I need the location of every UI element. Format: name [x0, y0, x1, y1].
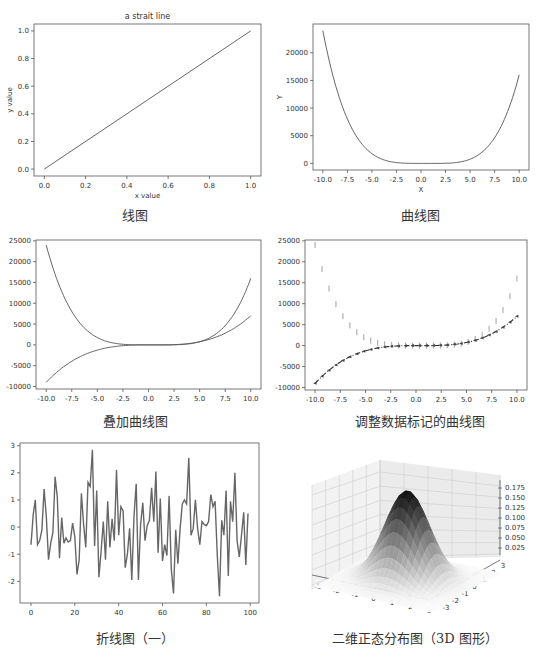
- x-tick-label: -7.5: [333, 396, 347, 404]
- cubic-curve-series: [46, 316, 251, 383]
- x-tick-label: 20: [70, 609, 79, 617]
- x-tick-label: 0.0: [410, 396, 421, 404]
- x-tick-label: 0.8: [204, 182, 215, 190]
- y-tick-label: -5000: [11, 362, 31, 370]
- y-tick-label: 5000: [282, 321, 300, 329]
- y-tick-label: 3: [501, 562, 505, 570]
- x-tick-label: -5.0: [365, 176, 379, 184]
- noise-series: [31, 450, 248, 596]
- x-tick-label: -10.0: [314, 176, 332, 184]
- x-tick-label: -5.0: [91, 395, 105, 403]
- chart-title: a strait line: [125, 12, 170, 21]
- x-tick-label: 7.5: [486, 396, 497, 404]
- cubic-dashdot-series: [315, 316, 517, 383]
- z-tick-label: 0.175: [505, 484, 525, 492]
- x-tick-label: -10.0: [37, 395, 55, 403]
- x-tick-label: -10.0: [306, 396, 324, 404]
- y-tick-label: 0.6: [18, 83, 30, 91]
- x-tick-label: 5.0: [461, 396, 472, 404]
- chart-marker-curves: -10.0-7.5-5.0-2.50.02.55.07.510.0-10000-…: [270, 225, 541, 410]
- x-tick-label: 0.0: [143, 395, 154, 403]
- triangle-marker: [313, 382, 317, 385]
- y-tick-label: -3: [443, 604, 450, 612]
- x-tick-label: 60: [158, 609, 167, 617]
- y-tick-label: 5000: [290, 132, 308, 140]
- triangle-marker: [508, 321, 512, 324]
- y-tick-label: 5000: [13, 321, 31, 329]
- y-tick-label: -10000: [6, 383, 31, 391]
- y-tick-label: 1.0: [18, 27, 29, 35]
- plot-area-frame: [305, 240, 527, 390]
- x-tick-label: 1.0: [245, 182, 256, 190]
- plot-area-frame: [313, 24, 529, 170]
- x-tick-label: 0.6: [163, 182, 175, 190]
- chart-curve: -10.0-7.5-5.0-2.50.02.55.07.510.00500010…: [270, 0, 541, 205]
- x-tick-label: 80: [202, 609, 211, 617]
- z-tick-label: 0.050: [505, 534, 525, 542]
- x-tick-label: 100: [244, 609, 257, 617]
- y-axis-label: y value: [6, 87, 14, 113]
- plot-area-frame: [20, 443, 259, 603]
- chart-polyline: 020406080100-2-10123: [0, 430, 270, 620]
- triangle-marker: [376, 347, 380, 350]
- y-tick-label: 15000: [286, 77, 308, 85]
- caption-marker-chart: 调整数据标记的曲线图: [330, 411, 510, 430]
- y-tick-label: 25000: [9, 237, 31, 245]
- triangle-marker: [355, 352, 359, 355]
- y-tick-label: 10000: [278, 300, 300, 308]
- y-tick-label: 0.0: [18, 166, 29, 174]
- chart-3d-normal-surface: -3-2-10123-3-2-101230.0250.0500.0750.100…: [270, 430, 541, 620]
- chart-overlay-curves: -10.0-7.5-5.0-2.50.02.55.07.510.0-10000-…: [0, 225, 270, 410]
- x-tick-label: -2.5: [384, 396, 398, 404]
- caption-line-chart: 线图: [85, 205, 185, 224]
- x-tick-label: 2.5: [168, 395, 179, 403]
- caption-curve-chart: 曲线图: [370, 205, 470, 224]
- y-tick-label: 0.8: [18, 55, 29, 63]
- z-tick-label: 0.150: [505, 494, 525, 502]
- y-tick-label: -5000: [280, 363, 300, 371]
- z-tick-label: 0.025: [505, 544, 525, 552]
- x-tick-label: -7.5: [341, 176, 355, 184]
- quartic-curve-series: [46, 245, 251, 345]
- z-tick-label: 0.075: [505, 524, 525, 532]
- triangle-marker: [369, 348, 373, 351]
- y-tick-label: 0.4: [18, 110, 30, 118]
- x-tick-label: 0: [29, 609, 33, 617]
- triangle-marker: [515, 315, 519, 318]
- x-tick-label: 2.5: [440, 176, 451, 184]
- x-tick-label: -2.5: [116, 395, 130, 403]
- y-tick-label: -1: [8, 551, 15, 559]
- x-tick-label: 7.5: [489, 176, 500, 184]
- x-tick-label: 0.0: [415, 176, 426, 184]
- x-tick-label: 10.0: [509, 396, 525, 404]
- z-tick-label: 0.125: [505, 504, 525, 512]
- x-tick-label: -7.5: [65, 395, 79, 403]
- caption-overlay-chart: 叠加曲线图: [70, 411, 200, 430]
- x-tick-label: 10.0: [243, 395, 259, 403]
- y-tick-label: 10000: [9, 300, 31, 308]
- x-tick-label: 0.4: [121, 182, 133, 190]
- triangle-marker: [320, 375, 324, 378]
- y-tick-label: 0: [11, 524, 15, 532]
- y-tick-label: 20000: [286, 49, 308, 57]
- caption-3d-chart: 二维正态分布图（3D 图形）: [320, 628, 510, 647]
- x-axis-label: X: [419, 186, 424, 194]
- y-tick-label: 10000: [286, 105, 308, 113]
- y-tick-label: 2: [11, 469, 15, 477]
- y-tick-label: 15000: [278, 279, 300, 287]
- y-tick-label: 0: [296, 342, 300, 350]
- straight-line-series: [44, 31, 250, 169]
- z-tick-label: 0.100: [505, 514, 525, 522]
- x-tick-label: 2.5: [436, 396, 447, 404]
- y-tick-label: -2: [8, 578, 15, 586]
- plot-area-frame: [36, 240, 261, 389]
- x-axis-label: x value: [135, 192, 161, 200]
- triangle-marker: [334, 363, 338, 366]
- y-tick-label: 3: [11, 442, 15, 450]
- y-axis-label: Y: [276, 94, 284, 100]
- x-tick-label: 5.0: [194, 395, 205, 403]
- y-tick-label: 1: [11, 496, 15, 504]
- chart-straight-line: 0.00.20.40.60.81.00.00.20.40.60.81.0a st…: [0, 0, 270, 205]
- y-tick-label: 20000: [278, 258, 300, 266]
- x-tick-label: 0.0: [39, 182, 50, 190]
